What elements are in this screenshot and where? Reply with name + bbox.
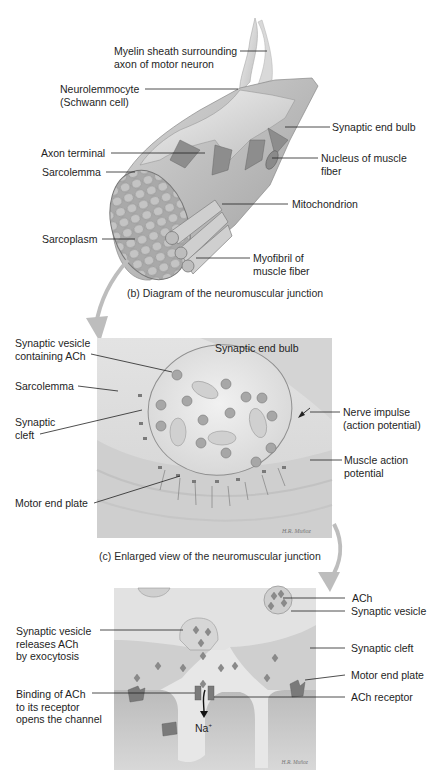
label-line: Synaptic — [15, 416, 55, 429]
sodium-charge: + — [208, 722, 212, 728]
label-line: Myofibril of — [253, 252, 310, 265]
label-line: fiber — [321, 165, 407, 178]
label-synaptic-vesicle-d: Synaptic vesicle — [351, 605, 426, 618]
label-line: opens the channel — [16, 713, 102, 726]
label-myelin-sheath: Myelin sheath surrounding axon of motor … — [114, 45, 237, 70]
label-neurolemmocyte: Neurolemmocyte (Schwann cell) — [60, 83, 139, 108]
label-mitochondrion: Mitochondrion — [292, 198, 358, 211]
label-motor-end-plate-c: Motor end plate — [15, 497, 88, 510]
label-synaptic-end-bulb-c: Synaptic end bulb — [215, 342, 298, 355]
sodium-symbol: Na — [195, 722, 208, 734]
label-nerve-impulse: Nerve impulse (action potential) — [343, 406, 421, 431]
enlarged-view-drawing: H.R. Muñoz — [97, 333, 332, 538]
label-synaptic-cleft-c: Synaptic cleft — [15, 416, 55, 441]
label-nucleus-of-muscle-fiber: Nucleus of muscle fiber — [321, 152, 407, 177]
artist-signature-d: H.R. Muñoz — [281, 759, 309, 765]
label-synaptic-vesicle-ach: Synaptic vesicle containing ACh — [15, 337, 90, 362]
label-line: Neurolemmocyte — [60, 83, 139, 96]
label-sodium-ion: Na+ — [195, 719, 212, 734]
label-line: containing ACh — [15, 350, 90, 363]
label-binding-of-ach: Binding of ACh to its receptor opens the… — [16, 688, 102, 726]
label-sarcolemma-b: Sarcolemma — [42, 166, 101, 179]
caption-panel-c: (c) Enlarged view of the neuromuscular j… — [99, 550, 321, 562]
label-line: releases ACh — [16, 638, 91, 651]
label-ach-receptor: ACh receptor — [351, 691, 413, 704]
label-line: muscle fiber — [253, 265, 310, 278]
label-myofibril: Myofibril of muscle fiber — [253, 252, 310, 277]
label-line: Nerve impulse — [343, 406, 421, 419]
label-line: potential — [344, 467, 408, 480]
artist-signature-c: H.R. Muñoz — [281, 528, 311, 534]
label-line: Binding of ACh — [16, 688, 102, 701]
label-motor-end-plate-d: Motor end plate — [351, 669, 424, 682]
label-line: axon of motor neuron — [114, 58, 237, 71]
label-line: Myelin sheath surrounding — [114, 45, 237, 58]
label-line: (Schwann cell) — [60, 96, 139, 109]
label-line: Synaptic vesicle — [16, 625, 91, 638]
caption-panel-b: (b) Diagram of the neuromuscular junctio… — [127, 287, 323, 299]
label-sarcolemma-c: Sarcolemma — [15, 380, 74, 393]
label-ach: ACh — [352, 592, 372, 605]
label-line: by exocytosis — [16, 650, 91, 663]
receptor-detail-drawing: H.R. Muñoz — [114, 586, 316, 770]
label-line: Nucleus of muscle — [321, 152, 407, 165]
flow-arrow-b-to-c — [96, 260, 128, 325]
label-vesicle-releases-ach: Synaptic vesicle releases ACh by exocyto… — [16, 625, 91, 663]
label-line: Synaptic vesicle — [15, 337, 90, 350]
label-line: (action potential) — [343, 419, 421, 432]
label-synaptic-cleft-d: Synaptic cleft — [351, 642, 413, 655]
label-line: cleft — [15, 429, 55, 442]
label-axon-terminal: Axon terminal — [41, 147, 105, 160]
label-muscle-action-potential: Muscle action potential — [344, 454, 408, 479]
label-line: Muscle action — [344, 454, 408, 467]
label-sarcoplasm: Sarcoplasm — [42, 233, 97, 246]
label-line: to its receptor — [16, 701, 102, 714]
label-synaptic-end-bulb-b: Synaptic end bulb — [332, 121, 415, 134]
